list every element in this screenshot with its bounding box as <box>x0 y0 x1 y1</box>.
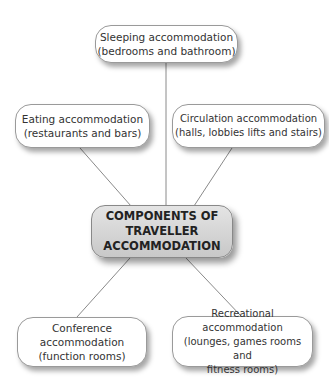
connector-conference <box>77 258 130 317</box>
node-recreational-accommodation: Recreational accommodation (lounges, gam… <box>172 316 313 367</box>
node-line: Recreational accommodation <box>173 307 312 335</box>
node-line: Eating accommodation <box>22 112 143 126</box>
center-title-line: COMPONENTS OF <box>106 209 219 224</box>
node-conference-accommodation: Conference accommodation (function rooms… <box>17 317 147 367</box>
node-sleeping-accommodation: Sleeping accommodation (bedrooms and bat… <box>95 25 238 63</box>
node-line: accommodation <box>40 335 125 349</box>
node-line: Circulation accommodation <box>180 112 317 126</box>
node-line: Conference <box>52 321 112 335</box>
node-line: (lounges, games rooms and <box>173 335 312 363</box>
center-title-line: TRAVELLER <box>126 224 199 239</box>
node-line: fitness rooms) <box>207 363 278 377</box>
node-line: (halls, lobbies lifts and stairs) <box>175 126 322 140</box>
center-node-components: COMPONENTS OF TRAVELLER ACCOMMODATION <box>91 205 233 258</box>
connector-circulation <box>194 148 232 206</box>
node-eating-accommodation: Eating accommodation (restaurants and ba… <box>15 104 150 148</box>
node-line: (bedrooms and bathroom) <box>97 44 235 58</box>
node-circulation-accommodation: Circulation accommodation (halls, lobbie… <box>172 104 325 148</box>
connector-eating <box>80 148 131 206</box>
node-line: (restaurants and bars) <box>24 126 142 140</box>
node-line: (function rooms) <box>38 349 125 363</box>
node-line: Sleeping accommodation <box>100 30 233 44</box>
center-title-line: ACCOMMODATION <box>103 239 220 254</box>
